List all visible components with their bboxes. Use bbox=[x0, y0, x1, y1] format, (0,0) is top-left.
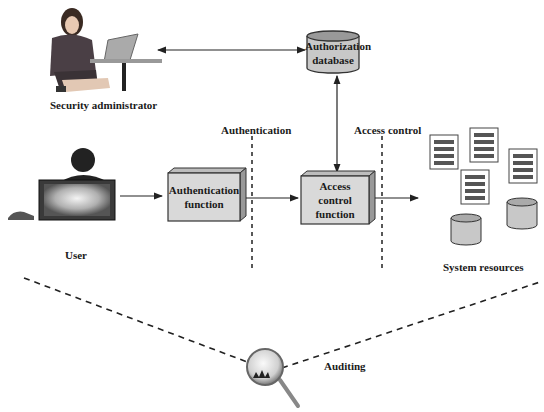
access-control-boundary-label: Access control bbox=[354, 124, 421, 136]
ac-fn-line3: function bbox=[301, 207, 369, 221]
document-icon bbox=[461, 170, 489, 204]
ac-fn-line2: control bbox=[301, 193, 369, 207]
database-icon bbox=[507, 198, 537, 229]
diagram-canvas bbox=[0, 0, 544, 412]
auth-db-line2: database bbox=[305, 53, 361, 67]
database-icon bbox=[451, 214, 481, 245]
document-icon bbox=[470, 128, 498, 162]
security-administrator-figure bbox=[50, 8, 162, 92]
auditing-line-left bbox=[24, 278, 250, 363]
auth-db-line1: Authorization bbox=[305, 39, 361, 53]
magnifying-glass-icon bbox=[247, 349, 298, 406]
auth-fn-line1: Authentication bbox=[168, 183, 240, 197]
document-icon bbox=[509, 149, 537, 183]
auth-fn-line2: function bbox=[168, 197, 240, 211]
system-resources-group bbox=[430, 128, 537, 245]
security-administrator-label: Security administrator bbox=[50, 99, 157, 111]
access-control-function-label: Access control function bbox=[301, 179, 369, 221]
authentication-function-label: Authentication function bbox=[168, 183, 240, 211]
user-label: User bbox=[65, 249, 87, 261]
user-figure bbox=[8, 148, 115, 220]
authentication-boundary-label: Authentication bbox=[221, 124, 291, 136]
auditing-line-right bbox=[282, 282, 540, 368]
auditing-label: Auditing bbox=[324, 360, 366, 372]
document-icon bbox=[430, 135, 458, 169]
system-resources-label: System resources bbox=[443, 261, 524, 273]
authorization-database-label: Authorization database bbox=[305, 39, 361, 67]
ac-fn-line1: Access bbox=[301, 179, 369, 193]
